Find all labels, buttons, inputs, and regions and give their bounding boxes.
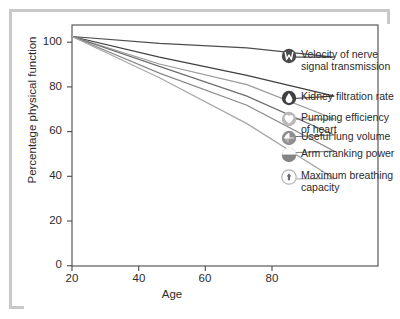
chart-screenshot: 100 80 60 40 20 0 20 40 60 80 Percentage…	[0, 0, 400, 319]
legend-entry-arm-cranking-power[interactable]: Arm cranking power	[281, 147, 394, 163]
legend-label-line1: Maximum breathing	[301, 169, 393, 181]
y-tick-label: 80	[36, 80, 62, 92]
x-tick-label: 80	[258, 272, 286, 284]
legend-label-line1: Velocity of nerve	[301, 48, 378, 60]
legend-label: Maximum breathingcapacity	[301, 169, 393, 193]
heart-icon	[281, 111, 297, 127]
y-tick-label: 60	[36, 124, 62, 136]
legend-entry-kidney-filtration-rate[interactable]: Kidney filtration rate	[281, 90, 394, 106]
y-tick-label: 0	[36, 258, 62, 270]
legend-entry-useful-lung-volume[interactable]: Useful lung volume	[281, 130, 390, 146]
legend-entry-maximum-breathing-capacity[interactable]: Maximum breathingcapacity	[281, 169, 393, 193]
x-axis-ticks	[72, 266, 272, 271]
legend-label: Velocity of nervesignal transmission	[301, 48, 390, 72]
legend-entry-velocity-of-nerve-signal-transmission[interactable]: Velocity of nervesignal transmission	[281, 48, 390, 72]
y-tick-label: 40	[36, 169, 62, 181]
y-axis-ticks	[67, 42, 72, 266]
x-axis-title: Age	[122, 288, 222, 300]
y-axis-title: Percentage physical function	[26, 35, 38, 185]
x-tick-label: 60	[191, 272, 219, 284]
legend-label-line1: Pumping efficiency	[301, 111, 389, 123]
y-tick-label: 100	[36, 35, 62, 47]
breathing-capacity-icon	[281, 169, 297, 185]
legend-label-line2: signal transmission	[301, 60, 390, 72]
kidney-droplet-icon	[281, 90, 297, 106]
legend-label: Kidney filtration rate	[301, 90, 394, 103]
x-tick-label: 40	[125, 272, 153, 284]
x-tick-label: 20	[58, 272, 86, 284]
lung-volume-icon	[281, 130, 297, 146]
arm-power-icon	[281, 147, 297, 163]
line-chart-figure: 100 80 60 40 20 0 20 40 60 80 Percentage…	[0, 0, 400, 319]
legend-label-line2: capacity	[301, 181, 340, 193]
y-tick-label: 20	[36, 214, 62, 226]
legend-label: Useful lung volume	[301, 130, 390, 143]
legend-label: Arm cranking power	[301, 147, 394, 160]
nerve-signal-icon	[281, 48, 297, 64]
